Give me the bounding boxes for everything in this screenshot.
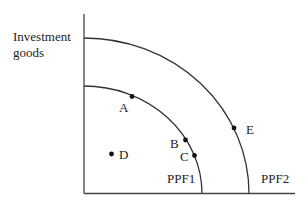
- point-b-marker: [183, 138, 188, 143]
- ppf1-label: PPF1: [167, 172, 195, 186]
- y-axis-label-line2: goods: [13, 45, 71, 61]
- point-c-marker: [192, 153, 197, 158]
- y-axis-label: Investment goods: [13, 29, 71, 61]
- ppf2-label: PPF2: [261, 172, 289, 186]
- point-e-marker: [232, 126, 237, 131]
- point-b-label: B: [170, 137, 179, 151]
- point-d-marker: [109, 152, 114, 157]
- point-a-label: A: [119, 101, 128, 115]
- point-d-label: D: [119, 148, 128, 162]
- y-axis-label-line1: Investment: [13, 29, 71, 45]
- point-a-marker: [130, 94, 135, 99]
- point-e-label: E: [246, 123, 254, 137]
- point-c-label: C: [180, 150, 189, 164]
